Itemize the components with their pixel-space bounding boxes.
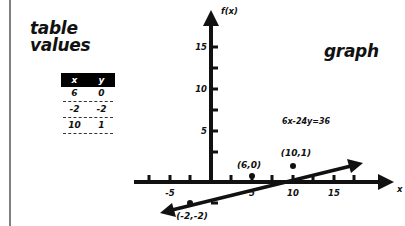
table-cell-x: 10 <box>61 119 88 132</box>
table-row: 6 0 <box>61 87 115 100</box>
x-axis-name: x <box>396 184 403 194</box>
table-header-row: x y <box>61 73 115 87</box>
point-label-10-1: (10,1) <box>281 148 311 158</box>
y-axis-arrow-icon <box>203 10 219 26</box>
y-tick-label-10: 10 <box>195 84 207 94</box>
point-label-neg2-neg2: (-2,-2) <box>176 211 208 221</box>
coordinate-graph: 15 10 5 -5 5 10 15 f(x) x (6,0) (10,1) (… <box>120 0 405 226</box>
y-tick-label-5: 5 <box>201 126 207 136</box>
x-tick-label-10: 10 <box>287 188 299 198</box>
line-arrow-left-icon <box>160 203 176 217</box>
table-values-heading: table values <box>30 20 90 55</box>
table-row: 10 1 <box>61 119 115 132</box>
left-margin-rule <box>9 0 11 226</box>
point-label-6-0: (6,0) <box>237 160 261 170</box>
table-row: -2 -2 <box>61 103 115 116</box>
table-cell-x: -2 <box>61 103 88 116</box>
values-table: x y 6 0 -2 -2 10 1 <box>61 73 115 135</box>
table-cell-y: 1 <box>88 119 115 132</box>
point-marker-neg2-neg2 <box>187 200 193 206</box>
table-cell-y: -2 <box>88 103 115 116</box>
function-line <box>172 166 351 210</box>
point-marker-6-0 <box>249 173 255 179</box>
table-row-separator <box>63 133 113 134</box>
point-marker-10-1 <box>290 163 296 169</box>
table-row-separator <box>63 117 113 118</box>
line-arrow-right-icon <box>347 159 363 173</box>
x-tick-label-15: 15 <box>328 188 340 198</box>
x-tick-label-neg5: -5 <box>165 188 175 198</box>
x-axis-arrow-icon <box>378 174 394 190</box>
y-tick-label-15: 15 <box>195 42 207 52</box>
table-header-y: y <box>88 73 115 87</box>
slide-canvas: table values graph x y 6 0 -2 -2 10 1 <box>0 0 405 226</box>
table-cell-y: 0 <box>88 87 115 100</box>
table-header-x: x <box>61 73 88 87</box>
table-cell-x: 6 <box>61 87 88 100</box>
equation-label: 6x-24y=36 <box>282 117 331 126</box>
y-axis-name: f(x) <box>221 6 238 16</box>
table-row-separator <box>63 101 113 102</box>
